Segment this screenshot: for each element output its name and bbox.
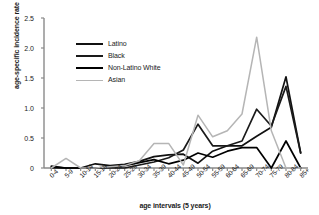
legend-swatch-line-icon bbox=[76, 67, 103, 69]
legend-item-non-latino-white[interactable]: Non-Latino White bbox=[76, 62, 186, 74]
chart-figure: age-specific incidence rate 00.51.01.52.… bbox=[0, 0, 319, 215]
chart-legend: LatinoBlackNon-Latino WhiteAsian bbox=[76, 38, 186, 86]
plot-area bbox=[0, 0, 319, 215]
legend-item-label: Latino bbox=[108, 40, 126, 48]
legend-item-asian[interactable]: Asian bbox=[76, 74, 186, 86]
legend-item-label: Asian bbox=[108, 76, 125, 84]
x-axis-label: age intervals (5 years) bbox=[40, 202, 310, 209]
legend-swatch-line-icon bbox=[76, 80, 103, 81]
legend-swatch-line-icon bbox=[76, 55, 103, 57]
legend-item-black[interactable]: Black bbox=[76, 50, 186, 62]
legend-item-label: Non-Latino White bbox=[108, 64, 160, 72]
legend-item-label: Black bbox=[108, 52, 125, 60]
legend-swatch-line-icon bbox=[76, 43, 103, 45]
legend-item-latino[interactable]: Latino bbox=[76, 38, 186, 50]
